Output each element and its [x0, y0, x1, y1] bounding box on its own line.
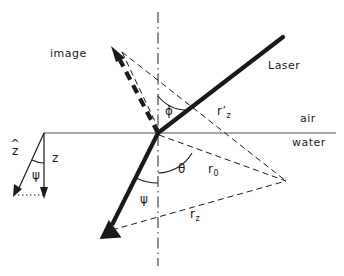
inset-z-hat-arrowhead: [13, 184, 22, 197]
phi-angle-label: ϕ: [165, 105, 173, 117]
r-prime-z-subscript: z: [226, 111, 230, 120]
image-ray-line: [120, 60, 158, 133]
r-prime-z-label: r’z: [217, 105, 231, 120]
theta-angle-label: θ: [178, 163, 186, 175]
r-zero-label: r0: [208, 163, 219, 178]
r-z-label: rz: [190, 208, 200, 223]
refracted-ray-line: [112, 133, 158, 225]
psi-angle-label: ψ: [140, 193, 148, 205]
z-hat-label: ^z: [12, 145, 19, 157]
laser-label: Laser: [268, 60, 300, 71]
image-to-origin-dashed-line: [122, 52, 160, 132]
water-label: water: [292, 137, 326, 148]
air-label: air: [300, 113, 316, 124]
r-zero-subscript: 0: [213, 169, 218, 178]
inset-psi-label: ψ: [32, 169, 40, 181]
r-z-dashed-line: [112, 181, 286, 230]
inset-psi-angle-arc: [32, 160, 44, 163]
inset-z-arrowhead: [40, 187, 48, 199]
theta-angle-arc: [158, 153, 192, 173]
z-hat-wrapper: ^z: [12, 145, 19, 157]
figure-container: image Laser air water ϕ θ ψ r’z r0 rz ^z…: [0, 0, 344, 276]
r-prime-z-dashed-line: [122, 52, 286, 181]
z-axis-label: z: [52, 152, 59, 164]
psi-angle-arc: [136, 178, 158, 183]
image-label: image: [50, 48, 87, 59]
r-z-subscript: z: [195, 214, 199, 223]
z-hat-caret: ^: [11, 138, 21, 149]
